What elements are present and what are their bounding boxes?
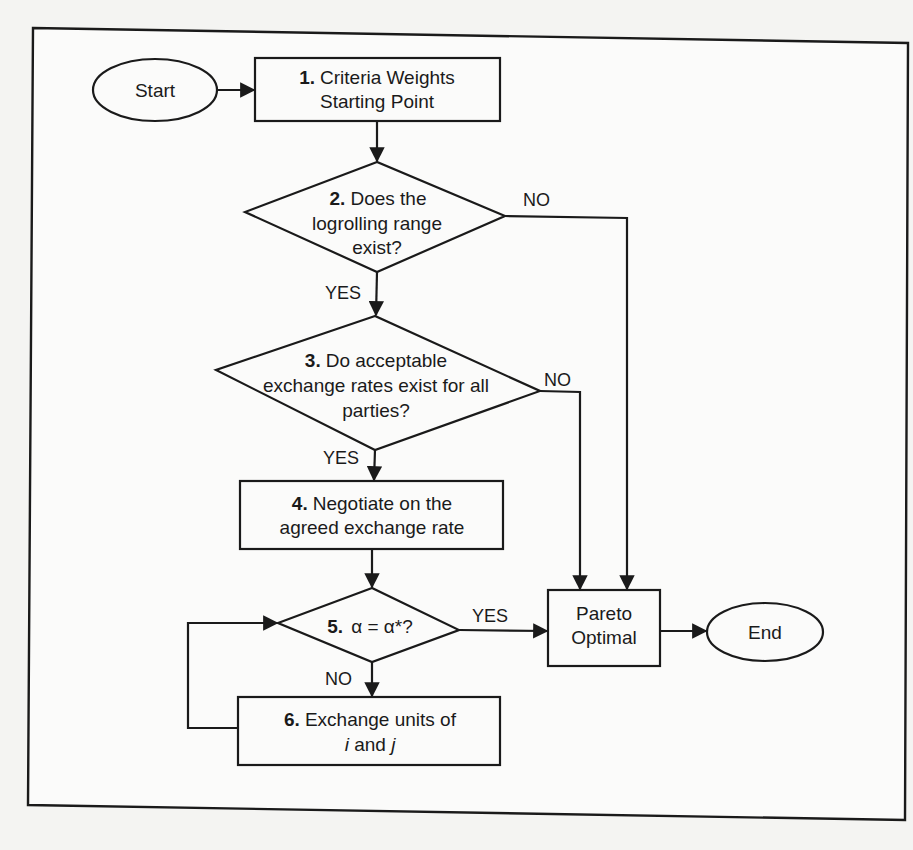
end-label: End: [748, 622, 782, 643]
step5-number: 5.: [327, 616, 343, 637]
step2-number: 2.: [330, 188, 346, 209]
step2-line1: Does the: [350, 188, 426, 209]
node-step1: 1.Criteria Weights Starting Point: [255, 58, 500, 121]
step4-number: 4.: [292, 493, 308, 514]
step3-line1: Do acceptable: [326, 350, 447, 371]
label-step2-no: NO: [523, 190, 550, 210]
step5-condition: α = α*?: [351, 616, 413, 637]
step4-line1: Negotiate on the: [313, 493, 452, 514]
step2-line2: logrolling range: [312, 213, 442, 234]
edge-step3-yes: [374, 450, 375, 480]
pareto-line2: Optimal: [571, 627, 636, 648]
label-step3-no: NO: [544, 370, 571, 390]
step6-and: and: [349, 734, 391, 755]
node-step6: 6.Exchange units of i and j: [238, 697, 500, 765]
step6-line1: Exchange units of: [305, 709, 457, 730]
step4-line2: agreed exchange rate: [280, 517, 465, 538]
node-start: Start: [93, 59, 217, 121]
step6-number: 6.: [284, 709, 300, 730]
step4-text: 4.Negotiate on the: [292, 493, 452, 514]
step6-text: 6.Exchange units of: [284, 709, 457, 730]
step3-line2: exchange rates exist for all: [263, 375, 489, 396]
step1-line1: Criteria Weights: [320, 67, 455, 88]
pareto-line1: Pareto: [576, 603, 632, 624]
node-pareto-optimal: Pareto Optimal: [548, 590, 660, 666]
step2-line3: exist?: [352, 237, 402, 258]
step1-line2: Starting Point: [320, 91, 435, 112]
start-label: Start: [135, 80, 176, 101]
step1-number: 1.: [299, 67, 315, 88]
edge-step2-yes: [376, 272, 377, 315]
node-step4: 4.Negotiate on the agreed exchange rate: [240, 481, 503, 549]
step3-number: 3.: [305, 350, 321, 371]
step5-text: 5.α = α*?: [327, 616, 412, 637]
step6-line2: i and j: [345, 734, 397, 755]
edge-step5-yes: [459, 630, 547, 631]
node-end: End: [707, 603, 823, 661]
step3-line3: parties?: [342, 400, 410, 421]
label-step5-no: NO: [325, 669, 352, 689]
step3-text: 3.Do acceptable: [305, 350, 447, 371]
label-step3-yes: YES: [323, 448, 359, 468]
label-step5-yes: YES: [472, 606, 508, 626]
flowchart-diagram: Start 1.Criteria Weights Starting Point …: [0, 0, 913, 850]
step1-text: 1.Criteria Weights: [299, 67, 455, 88]
label-step2-yes: YES: [325, 283, 361, 303]
step2-text: 2.Does the: [330, 188, 427, 209]
